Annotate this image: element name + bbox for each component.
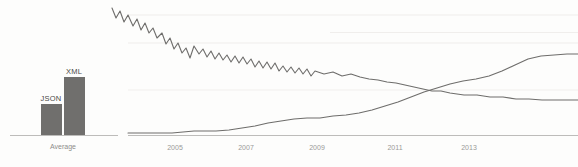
bar-xml	[64, 77, 85, 135]
figure-container: Extensibility and language text-only lan…	[0, 0, 578, 167]
series-line-json	[128, 54, 578, 133]
bar-chart	[10, 77, 118, 136]
gridlines	[128, 15, 578, 90]
charts-layer: JSON XML Average 2005 2007 2009 2011 201…	[0, 0, 578, 167]
bar-label-xml: XML	[66, 67, 82, 76]
xtick-2011: 2011	[387, 144, 402, 151]
charts-svg	[0, 0, 578, 167]
xtick-2007: 2007	[238, 144, 254, 151]
xtick-2013: 2013	[461, 144, 477, 151]
bar-json	[41, 104, 62, 135]
series-line-xml	[112, 8, 578, 100]
xtick-2005: 2005	[167, 144, 183, 151]
xtick-2009: 2009	[309, 144, 325, 151]
bar-label-json: JSON	[41, 94, 62, 103]
bar-chart-group-label: Average	[50, 143, 76, 150]
